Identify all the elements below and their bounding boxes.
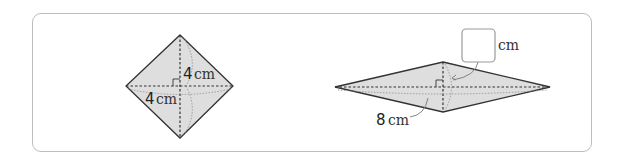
diagram-canvas: 4 cm 4 cm cm 8 cm [0, 0, 623, 162]
rhombus-a-vertical-label-num: 4 [183, 65, 193, 83]
answer-box[interactable] [462, 29, 495, 62]
rhombus-b-horizontal-label-num: 8 [376, 111, 386, 129]
rhombus-a-horizontal-label-num: 4 [145, 90, 155, 108]
rhombus-a-horizontal-label-unit: cm [156, 91, 177, 107]
rhombus-a: 4 cm 4 cm [126, 35, 233, 138]
rhombus-b-vertical-label-unit: cm [498, 37, 519, 53]
rhombus-a-vertical-label-unit: cm [194, 66, 215, 82]
rhombus-b-horizontal-label-unit: cm [388, 112, 409, 128]
rhombus-b: cm 8 cm [335, 29, 550, 129]
